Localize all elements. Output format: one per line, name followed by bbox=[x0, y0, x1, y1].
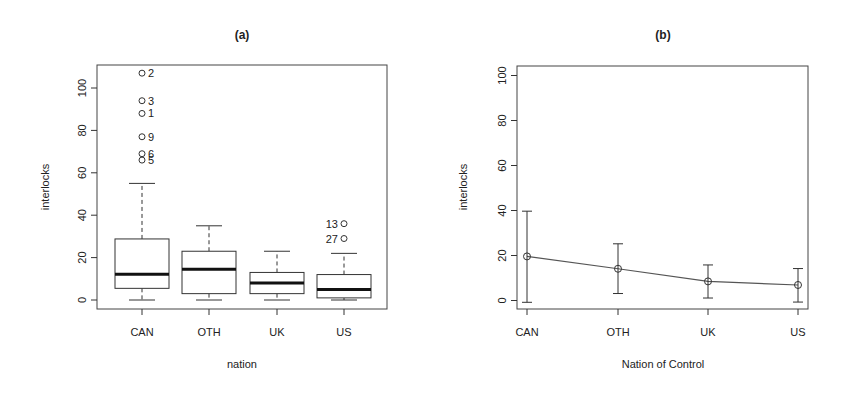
panel-a-outliers: 2319651327 bbox=[139, 67, 347, 244]
x-tick-label-can: CAN bbox=[130, 326, 153, 338]
panel-a-x-axis: CANOTHUKUS bbox=[130, 309, 351, 338]
error-bar-can bbox=[522, 211, 532, 302]
outlier-label: 3 bbox=[148, 95, 154, 107]
x-tick-label-us: US bbox=[336, 326, 351, 338]
x-tick-label-us: US bbox=[790, 326, 805, 338]
panel-b-series bbox=[522, 211, 803, 302]
outlier-point: 5 bbox=[139, 154, 154, 166]
y-tick-label: 20 bbox=[76, 251, 88, 263]
chart-canvas: (a) 020406080100 CANOTHUKUS 2319651327 n… bbox=[0, 0, 846, 397]
outlier-label: 2 bbox=[148, 67, 154, 79]
y-tick-label: 100 bbox=[76, 79, 88, 97]
y-tick-label: 60 bbox=[496, 159, 508, 171]
panel-b-x-label: Nation of Control bbox=[622, 358, 705, 370]
x-tick-label-uk: UK bbox=[269, 326, 285, 338]
outlier-point: 9 bbox=[139, 131, 154, 143]
box-us bbox=[317, 253, 371, 300]
panel-a-x-label: nation bbox=[227, 358, 257, 370]
error-bar-oth bbox=[613, 244, 623, 294]
panel-b-x-axis: CANOTHUKUS bbox=[515, 309, 805, 338]
y-tick-label: 80 bbox=[496, 114, 508, 126]
x-tick-label-can: CAN bbox=[515, 326, 538, 338]
outlier-label: 5 bbox=[148, 154, 154, 166]
outlier-point: 1 bbox=[139, 107, 154, 119]
outlier-label: 27 bbox=[326, 233, 338, 245]
box-uk bbox=[250, 251, 304, 300]
outlier-point: 13 bbox=[326, 218, 347, 230]
y-tick-label: 20 bbox=[496, 249, 508, 261]
error-bar-us bbox=[793, 269, 803, 303]
y-tick-label: 100 bbox=[496, 66, 508, 84]
x-tick-label-oth: OTH bbox=[606, 326, 629, 338]
y-tick-label: 40 bbox=[76, 209, 88, 221]
box-oth bbox=[182, 226, 236, 300]
y-tick-label: 60 bbox=[76, 167, 88, 179]
outlier-point: 2 bbox=[139, 67, 154, 79]
panel-b-y-label: interlocks bbox=[457, 163, 469, 210]
y-tick-label: 0 bbox=[496, 297, 508, 303]
panel-b-title: (b) bbox=[655, 28, 670, 42]
outlier-point: 3 bbox=[139, 95, 154, 107]
panel-a-y-label: interlocks bbox=[39, 163, 51, 210]
panel-a-title: (a) bbox=[235, 28, 250, 42]
outlier-point: 27 bbox=[326, 233, 347, 245]
y-tick-label: 0 bbox=[76, 297, 88, 303]
outlier-label: 1 bbox=[148, 107, 154, 119]
panel-a-boxplot: (a) 020406080100 CANOTHUKUS 2319651327 n… bbox=[39, 28, 387, 370]
panel-a-y-axis: 020406080100 bbox=[76, 79, 97, 303]
panel-b-mean-plot: (b) 020406080100 CANOTHUKUS Nation of Co… bbox=[457, 28, 808, 370]
x-tick-label-oth: OTH bbox=[197, 326, 220, 338]
y-tick-label: 40 bbox=[496, 204, 508, 216]
outlier-label: 9 bbox=[148, 131, 154, 143]
panel-b-plot-frame bbox=[517, 66, 808, 309]
mean-line bbox=[527, 256, 798, 285]
panel-b-y-axis: 020406080100 bbox=[496, 66, 517, 303]
outlier-label: 13 bbox=[326, 218, 338, 230]
error-bar-uk bbox=[703, 265, 713, 298]
y-tick-label: 80 bbox=[76, 124, 88, 136]
x-tick-label-uk: UK bbox=[700, 326, 716, 338]
figure: (a) 020406080100 CANOTHUKUS 2319651327 n… bbox=[0, 0, 846, 397]
box-can bbox=[115, 183, 169, 300]
